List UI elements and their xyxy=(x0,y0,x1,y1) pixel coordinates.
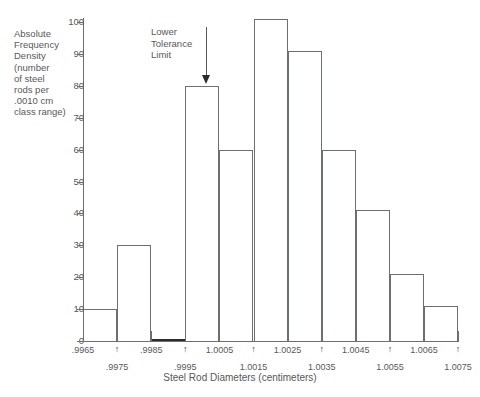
x-axis-tick-label: 1.0075 xyxy=(437,362,479,372)
y-axis-tick: 10 xyxy=(0,304,84,314)
histogram-bar xyxy=(254,19,288,341)
y-axis-tick-mark xyxy=(77,118,84,119)
annotation-line-3: Limit xyxy=(151,49,211,61)
x-axis-tick-mark xyxy=(390,331,391,342)
x-axis-tick-mark xyxy=(117,331,118,342)
histogram-bar xyxy=(288,51,322,341)
y-axis-tick: 20 xyxy=(0,272,84,282)
y-axis-tick: 50 xyxy=(0,177,84,187)
x-axis-tick-mark xyxy=(151,331,152,342)
y-axis-tick: 70 xyxy=(0,113,84,123)
histogram-bar xyxy=(390,274,424,341)
y-axis-title-line: Absolute xyxy=(14,28,76,39)
x-axis-tick-mark xyxy=(424,331,425,342)
x-axis-tick-label: .9975 xyxy=(96,362,138,372)
histogram-bar xyxy=(424,306,458,341)
x-axis-tick-mark xyxy=(322,331,323,342)
y-axis-tick-mark xyxy=(77,182,84,183)
x-axis-tick-pointer-icon: ↑ xyxy=(249,344,259,354)
x-axis-tick-label: 1.0015 xyxy=(233,362,275,372)
histogram-bar xyxy=(83,309,117,341)
y-axis-title-line: (number xyxy=(14,62,76,73)
x-axis-tick-label: .9965 xyxy=(62,345,104,355)
y-axis-tick-mark xyxy=(77,277,84,278)
x-axis-tick-pointer-icon: ↑ xyxy=(180,344,190,354)
x-axis-tick-label: .9995 xyxy=(164,362,206,372)
y-axis-title: Absolute Frequency Density (number of st… xyxy=(14,28,76,118)
x-axis-tick-label: 1.0045 xyxy=(335,345,377,355)
y-axis-tick-mark xyxy=(77,150,84,151)
x-axis-tick-label: 1.0055 xyxy=(369,362,411,372)
histogram-bar xyxy=(219,150,253,341)
x-axis-tick-label: 1.0065 xyxy=(403,345,445,355)
y-axis-tick: 40 xyxy=(0,208,84,218)
histogram-chart: Absolute Frequency Density (number of st… xyxy=(0,0,480,397)
y-axis-title-line: .0010 cm xyxy=(14,95,76,106)
lower-tolerance-limit-label: Lower Tolerance Limit xyxy=(151,26,211,61)
x-axis-tick-mark xyxy=(219,331,220,342)
arrow-down-icon xyxy=(202,75,210,84)
y-axis-tick: 30 xyxy=(0,240,84,250)
x-axis-tick-pointer-icon: ↑ xyxy=(112,344,122,354)
y-axis-tick-mark xyxy=(77,22,84,23)
y-axis-tick-mark xyxy=(77,54,84,55)
x-axis-tick-label: 1.0025 xyxy=(267,345,309,355)
y-axis-tick: 90 xyxy=(0,49,84,59)
x-axis-tick-label: 1.0005 xyxy=(198,345,240,355)
y-axis-tick: 60 xyxy=(0,145,84,155)
histogram-bar xyxy=(322,150,356,341)
x-axis-tick-mark xyxy=(356,331,357,342)
y-axis-tick: 80 xyxy=(0,81,84,91)
x-axis-tick-pointer-icon: ↑ xyxy=(317,344,327,354)
x-axis-tick-mark xyxy=(83,331,84,342)
histogram-bar xyxy=(151,339,185,341)
x-axis-tick-label: .9985 xyxy=(130,345,172,355)
x-axis-tick-mark xyxy=(288,331,289,342)
x-axis-title: Steel Rod Diameters (centimeters) xyxy=(0,372,480,383)
arrow-down-icon-shaft xyxy=(206,27,207,77)
x-axis-tick-pointer-icon: ↑ xyxy=(385,344,395,354)
annotation-line-1: Lower xyxy=(151,26,211,38)
y-axis-tick-mark xyxy=(77,86,84,87)
histogram-bar xyxy=(356,210,390,341)
histogram-bar xyxy=(117,245,151,341)
x-axis-tick-mark xyxy=(185,331,186,342)
x-axis-tick-label: 1.0035 xyxy=(301,362,343,372)
y-axis-tick-mark xyxy=(77,245,84,246)
x-axis-tick-mark xyxy=(458,331,459,342)
x-axis-tick-pointer-icon: ↑ xyxy=(453,344,463,354)
annotation-line-2: Tolerance xyxy=(151,38,211,50)
histogram-bar xyxy=(185,86,219,341)
y-axis-tick-mark xyxy=(77,213,84,214)
x-axis-line xyxy=(83,341,458,342)
x-axis-tick-mark xyxy=(254,331,255,342)
y-axis-tick: 100 xyxy=(0,17,84,27)
